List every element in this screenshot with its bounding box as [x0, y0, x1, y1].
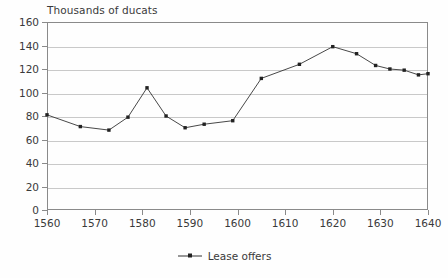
legend-item-label: Lease offers [208, 250, 272, 262]
data-series-layer [0, 0, 448, 278]
data-point-marker [126, 115, 129, 118]
data-point-marker [164, 114, 167, 117]
data-point-marker [45, 113, 48, 116]
data-point-marker [145, 86, 148, 89]
data-point-marker [355, 52, 358, 55]
data-point-marker [417, 73, 420, 76]
data-point-marker [202, 123, 205, 126]
data-point-marker [402, 68, 405, 71]
data-point-marker [388, 67, 391, 70]
data-point-marker [298, 63, 301, 66]
data-point-marker [426, 72, 429, 75]
series-line [47, 47, 428, 130]
data-point-marker [231, 119, 234, 122]
data-point-marker [331, 45, 334, 48]
data-point-marker [260, 77, 263, 80]
data-point-marker [79, 125, 82, 128]
data-point-marker [374, 64, 377, 67]
data-point-marker [107, 128, 110, 131]
chart-figure: Thousands of ducats 02040608010012014016… [0, 0, 448, 278]
legend-line-marker-icon [177, 251, 203, 261]
data-point-marker [183, 126, 186, 129]
legend: Lease offers [0, 250, 448, 262]
